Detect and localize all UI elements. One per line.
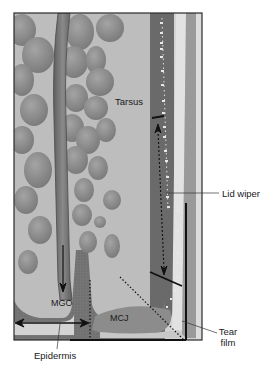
label-mgo: MGO — [51, 298, 73, 309]
label-tear-film: Tear film — [216, 326, 240, 348]
eyelid-diagram: Tarsus Lid wiper MGO MCJ Epidermis Tear … — [0, 0, 268, 370]
label-tear-line1: Tear — [216, 326, 240, 337]
diagram-canvas — [0, 0, 268, 370]
label-lid-wiper: Lid wiper — [222, 188, 260, 199]
label-epidermis: Epidermis — [34, 350, 76, 361]
label-tarsus: Tarsus — [115, 96, 143, 107]
label-mcj: MCJ — [110, 313, 129, 324]
label-tear-line2: film — [216, 337, 240, 348]
conjunctiva — [150, 13, 174, 335]
